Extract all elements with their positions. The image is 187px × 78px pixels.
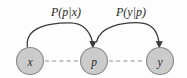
node-p[interactable]: p — [81, 48, 108, 75]
edge-label-p-given-x: P(p|x) — [50, 5, 81, 19]
node-y[interactable]: y — [147, 48, 174, 75]
node-p-label: p — [90, 56, 97, 69]
edge-label-y-given-p: P(y|p) — [115, 5, 146, 19]
probabilistic-graph-diagram: x p y P(p|x) P(y|p) — [0, 0, 187, 78]
node-x-label: x — [26, 56, 33, 68]
edge-arc-p-to-y — [97, 23, 160, 43]
edge-arc-x-to-p — [27, 23, 92, 48]
node-y-label: y — [156, 56, 163, 69]
diagram-canvas: x p y P(p|x) P(y|p) — [0, 0, 187, 78]
node-x[interactable]: x — [17, 48, 44, 75]
